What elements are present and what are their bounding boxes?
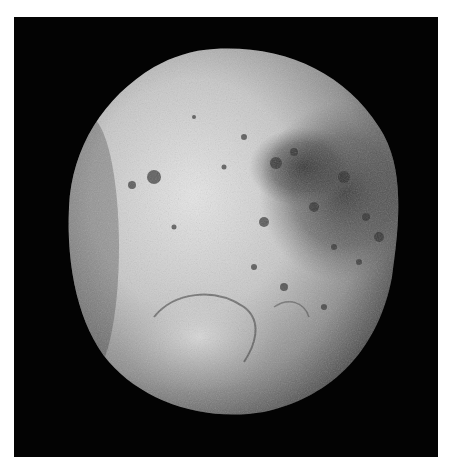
moon-photo: [14, 17, 438, 457]
photo-frame: [14, 17, 438, 457]
moon: [14, 17, 438, 457]
